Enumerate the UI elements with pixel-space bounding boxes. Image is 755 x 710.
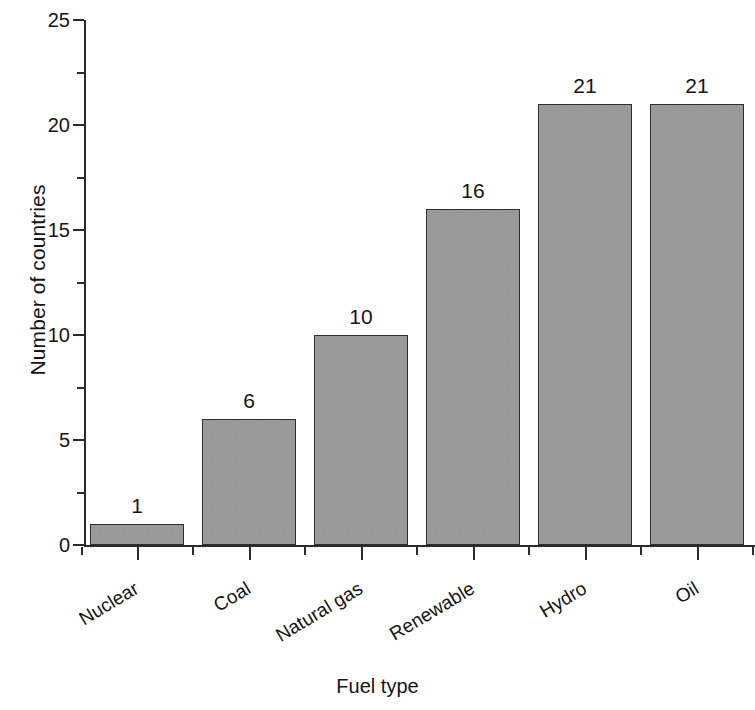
- x-tick-major: [585, 547, 587, 560]
- y-tick-major: [73, 124, 84, 126]
- y-axis-title: Number of countries: [26, 130, 50, 430]
- y-tick-minor: [77, 387, 84, 389]
- plot-area: 0510152025 1610162121 NuclearCoalNatural…: [84, 20, 755, 546]
- bar[interactable]: [426, 209, 520, 545]
- y-tick-major: [73, 19, 84, 21]
- y-tick-major: [73, 439, 84, 441]
- x-tick-minor: [416, 547, 418, 555]
- y-tick-minor: [77, 492, 84, 494]
- x-axis-line: [84, 545, 755, 547]
- y-tick-label: 25: [48, 9, 70, 32]
- bar[interactable]: [202, 419, 296, 545]
- y-tick-minor: [77, 282, 84, 284]
- x-tick-major: [697, 547, 699, 560]
- y-axis-line: [84, 20, 86, 546]
- y-tick-label: 0: [59, 534, 70, 557]
- y-tick-minor: [77, 72, 84, 74]
- x-tick-major: [137, 547, 139, 560]
- y-tick-minor: [77, 177, 84, 179]
- x-axis-title: Fuel type: [0, 675, 755, 698]
- y-tick-major: [73, 544, 84, 546]
- y-tick-major: [73, 229, 84, 231]
- x-tick-major: [249, 547, 251, 560]
- y-tick-label: 10: [48, 324, 70, 347]
- bar-chart-figure: Number of countries 0510152025 161016212…: [0, 0, 755, 710]
- x-tick-major: [473, 547, 475, 560]
- y-tick-label: 5: [59, 429, 70, 452]
- x-tick-minor: [81, 547, 83, 555]
- bar-value-label: 10: [314, 305, 408, 329]
- bar-value-label: 6: [202, 389, 296, 413]
- x-tick-minor: [528, 547, 530, 555]
- bar[interactable]: [90, 524, 184, 545]
- x-tick-minor: [192, 547, 194, 555]
- x-tick-minor: [304, 547, 306, 555]
- bar-value-label: 21: [538, 74, 632, 98]
- bar-value-label: 1: [90, 494, 184, 518]
- bar-value-label: 16: [426, 179, 520, 203]
- y-tick-major: [73, 334, 84, 336]
- y-tick-label: 20: [48, 114, 70, 137]
- bar[interactable]: [538, 104, 632, 545]
- bar-value-label: 21: [650, 74, 744, 98]
- y-tick-label: 15: [48, 219, 70, 242]
- bar[interactable]: [314, 335, 408, 545]
- x-tick-minor: [640, 547, 642, 555]
- x-tick-minor: [752, 547, 754, 555]
- x-tick-major: [361, 547, 363, 560]
- bar[interactable]: [650, 104, 744, 545]
